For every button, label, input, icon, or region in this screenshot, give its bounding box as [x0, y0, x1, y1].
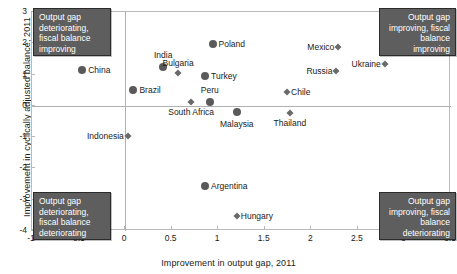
- y-tick-label: 0: [5, 100, 27, 110]
- x-tick: [217, 226, 218, 230]
- data-point-label: Chile: [291, 87, 310, 97]
- data-point-label: Hungary: [241, 211, 273, 221]
- annotation-bottom-left: Output gap deteriorating, fiscal balance…: [33, 192, 111, 240]
- y-tick-label: 2: [5, 37, 27, 47]
- y-tick-label: -4: [5, 225, 27, 235]
- data-point-marker: [209, 40, 217, 48]
- y-tick: [31, 74, 35, 75]
- horizontal-zero-axis: [32, 106, 451, 107]
- y-tick-label: -3: [5, 194, 27, 204]
- data-point-label: Ukraine: [352, 59, 381, 69]
- x-tick: [264, 226, 265, 230]
- vertical-zero-axis: [125, 12, 126, 231]
- x-tick-label: 1: [215, 233, 220, 243]
- data-point-marker: [78, 66, 86, 74]
- scatter-chart: Improvement in cyclically adjusted balan…: [0, 0, 457, 274]
- data-point-label: Bulgaria: [163, 58, 194, 68]
- data-point-marker: [201, 182, 209, 190]
- data-point-label: South Africa: [168, 107, 214, 117]
- y-tick-label: 1: [5, 69, 27, 79]
- x-tick: [310, 226, 311, 230]
- x-tick: [124, 226, 125, 230]
- data-point-marker: [233, 108, 241, 116]
- data-point-label: Brazil: [139, 85, 160, 95]
- data-point-marker: [206, 98, 214, 106]
- y-tick-label: -1: [5, 131, 27, 141]
- y-tick: [31, 105, 35, 106]
- data-point-label: Malaysia: [220, 119, 254, 129]
- annotation-top-right: Output gap improving, fiscal balance imp…: [379, 8, 456, 56]
- x-tick-label: 1.5: [258, 233, 270, 243]
- x-axis-title: Improvement in output gap, 2011: [0, 258, 457, 268]
- data-point-label: China: [88, 65, 110, 75]
- y-tick: [31, 136, 35, 137]
- data-point-label: Indonesia: [87, 131, 124, 141]
- data-point-label: Russia: [306, 66, 332, 76]
- data-point-marker: [201, 72, 209, 80]
- y-tick-label: 3: [5, 6, 27, 16]
- x-tick: [357, 226, 358, 230]
- data-point-marker: [129, 86, 137, 94]
- y-tick: [31, 167, 35, 168]
- x-tick-label: 2.5: [351, 233, 363, 243]
- data-point-label: Turkey: [211, 71, 237, 81]
- data-point-label: Thailand: [274, 118, 307, 128]
- data-point-label: Argentina: [211, 181, 247, 191]
- x-tick: [171, 226, 172, 230]
- x-tick-label: 0: [122, 233, 127, 243]
- data-point-label: Poland: [219, 39, 245, 49]
- data-point-label: Peru: [201, 85, 219, 95]
- data-point-label: Mexico: [307, 42, 334, 52]
- x-tick-label: 2: [308, 233, 313, 243]
- x-tick-label: 0.5: [165, 233, 177, 243]
- annotation-top-left: Output gap deteriorating, fiscal balance…: [33, 8, 111, 56]
- y-tick-label: -2: [5, 162, 27, 172]
- annotation-bottom-right: Output gap improving, fiscal balance det…: [379, 192, 456, 240]
